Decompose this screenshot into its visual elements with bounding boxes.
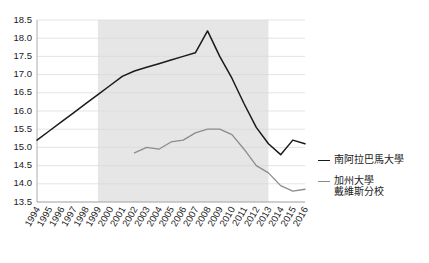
y-axis-tick-label: 15.5 — [14, 123, 33, 134]
y-axis-tick-label: 18.5 — [14, 14, 33, 25]
legend-label: 加州大學 戴維斯分校 — [334, 175, 384, 198]
y-axis-tick-label: 17.0 — [14, 68, 33, 79]
y-axis-tick-label: 16.5 — [14, 86, 33, 97]
y-axis-tick-label: 18.0 — [14, 32, 33, 43]
legend-line-swatch — [318, 176, 330, 187]
legend-entry: 南阿拉巴馬大學 — [318, 154, 429, 166]
y-axis-tick-labels: 13.514.014.515.015.516.016.517.017.518.0… — [14, 14, 33, 207]
y-axis-tick-label: 14.0 — [14, 177, 33, 188]
chart-plot-area: 13.514.014.515.015.516.016.517.017.518.0… — [0, 0, 429, 263]
y-axis-tick-label: 15.0 — [14, 141, 33, 152]
y-axis-tick-label: 13.5 — [14, 196, 33, 207]
line-chart: 13.514.014.515.015.516.016.517.017.518.0… — [0, 0, 429, 263]
y-axis-tick-label: 16.0 — [14, 105, 33, 116]
legend-label: 南阿拉巴馬大學 — [334, 154, 404, 166]
legend-line-swatch — [318, 155, 330, 166]
chart-legend: 南阿拉巴馬大學加州大學 戴維斯分校 — [318, 154, 429, 207]
y-axis-tick-label: 14.5 — [14, 159, 33, 170]
y-axis-tick-label: 17.5 — [14, 50, 33, 61]
legend-entry: 加州大學 戴維斯分校 — [318, 175, 429, 198]
x-axis-tick-labels: 1994199519961997199819992000200120022003… — [22, 205, 310, 229]
